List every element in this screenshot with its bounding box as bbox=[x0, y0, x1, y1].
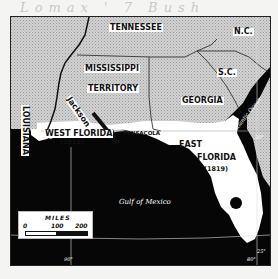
label-lat-30: 30° bbox=[255, 135, 264, 140]
scale-bar-graphic bbox=[25, 231, 88, 236]
label-gulf-of-mexico: Gulf of Mexico bbox=[119, 199, 171, 206]
lake-okeechobee bbox=[230, 197, 242, 209]
scale-bar: MILES 0 100 200 bbox=[18, 211, 93, 239]
label-east: EAST bbox=[178, 141, 203, 149]
label-mississippi: MISSISSIPPI bbox=[84, 65, 140, 73]
scale-tick-100: 100 bbox=[51, 222, 64, 229]
label-west-florida: WEST FLORIDA bbox=[44, 130, 113, 138]
handwritten-signature: Lomax ' 7 Bush bbox=[20, 0, 270, 14]
label-west-florida-year: (1812) bbox=[59, 139, 85, 146]
label-louisiana: LOUISIANA bbox=[21, 105, 29, 156]
label-east-florida-year: (1819) bbox=[203, 166, 229, 173]
label-lon-90: 90° bbox=[64, 257, 73, 262]
label-pensacola: PENSACOLA bbox=[122, 131, 161, 137]
label-georgia: GEORGIA bbox=[181, 97, 224, 105]
label-florida: FLORIDA bbox=[196, 154, 237, 162]
scale-title: MILES bbox=[45, 214, 70, 221]
label-north-carolina: N.C. bbox=[233, 28, 254, 36]
scale-tick-0: 0 bbox=[23, 222, 27, 229]
label-lon-80: 80° bbox=[247, 257, 256, 262]
label-lat-25: 25° bbox=[257, 249, 266, 254]
label-territory: TERRITORY bbox=[87, 85, 139, 93]
scale-tick-200: 200 bbox=[75, 222, 88, 229]
label-tennessee: TENNESSEE bbox=[109, 24, 163, 32]
label-south-carolina: S.C. bbox=[217, 69, 237, 77]
